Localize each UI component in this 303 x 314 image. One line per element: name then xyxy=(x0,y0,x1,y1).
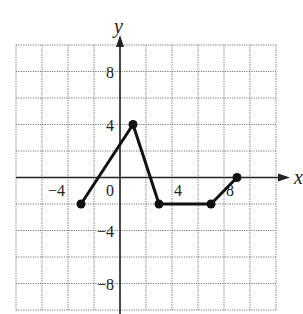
y-tick-label: 4 xyxy=(106,117,114,134)
graph: xy −404884−4−8 xyxy=(0,0,303,314)
x-axis-arrow-icon xyxy=(278,174,290,182)
x-axis-label: x xyxy=(293,166,303,188)
data-point xyxy=(233,173,242,182)
plot-series xyxy=(77,120,242,209)
series-line xyxy=(81,125,237,205)
data-point xyxy=(77,200,86,209)
data-point xyxy=(207,200,216,209)
x-tick-label: 0 xyxy=(106,182,114,199)
x-tick-label: −4 xyxy=(48,182,65,199)
y-axis-label: y xyxy=(112,15,123,38)
data-point xyxy=(129,120,138,129)
y-tick-label: −8 xyxy=(97,276,114,293)
y-tick-label: 8 xyxy=(106,64,114,81)
x-tick-label: 4 xyxy=(174,182,182,199)
y-tick-label: −4 xyxy=(97,223,114,240)
axes: xy xyxy=(16,15,303,314)
data-point xyxy=(155,200,164,209)
